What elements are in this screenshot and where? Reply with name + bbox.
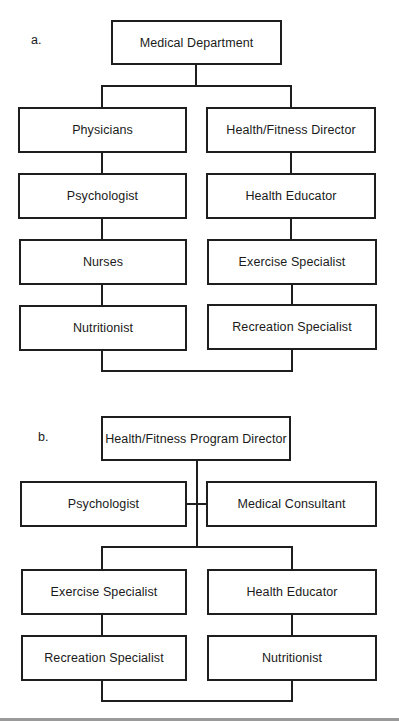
node-physicians: Physicians [18, 107, 187, 153]
panel-label-a: a. [31, 33, 41, 47]
connector [101, 85, 103, 108]
connector [101, 614, 103, 636]
connector [101, 218, 103, 240]
connector [101, 85, 292, 87]
connector [290, 152, 292, 174]
connector [291, 614, 293, 636]
node-medical-consultant: Medical Consultant [206, 481, 377, 527]
connector [186, 503, 207, 505]
connector [290, 218, 292, 240]
connector [291, 284, 293, 306]
connector [291, 680, 293, 702]
connector [101, 546, 293, 548]
node-recreation-specialist-b: Recreation Specialist [21, 635, 187, 681]
connector [195, 64, 197, 87]
node-exercise-specialist: Exercise Specialist [207, 239, 377, 285]
connector [101, 700, 293, 702]
node-health-educator: Health Educator [206, 173, 376, 219]
connector [101, 546, 103, 570]
node-health-educator-b: Health Educator [207, 569, 377, 615]
node-nutritionist-b: Nutritionist [207, 635, 377, 681]
connector [290, 85, 292, 108]
node-nutritionist: Nutritionist [19, 305, 187, 351]
node-staff-psychologist: Psychologist [20, 481, 187, 527]
node-recreation-specialist: Recreation Specialist [207, 304, 377, 350]
node-health-fitness-director: Health/Fitness Director [206, 107, 376, 153]
node-program-director: Health/Fitness Program Director [101, 416, 291, 461]
node-nurses: Nurses [19, 239, 187, 285]
node-medical-department: Medical Department [111, 20, 282, 65]
connector [101, 284, 103, 306]
connector [101, 370, 293, 372]
node-psychologist: Psychologist [18, 173, 187, 219]
connector [101, 680, 103, 702]
connector [291, 546, 293, 570]
connector [101, 152, 103, 174]
connector [291, 349, 293, 372]
connector [101, 350, 103, 372]
node-exercise-specialist-b: Exercise Specialist [21, 569, 187, 615]
panel-label-b: b. [38, 430, 48, 444]
